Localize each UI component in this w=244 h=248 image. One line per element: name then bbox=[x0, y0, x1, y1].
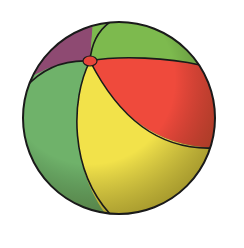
beach-ball bbox=[0, 0, 244, 248]
valve-icon bbox=[83, 56, 97, 66]
